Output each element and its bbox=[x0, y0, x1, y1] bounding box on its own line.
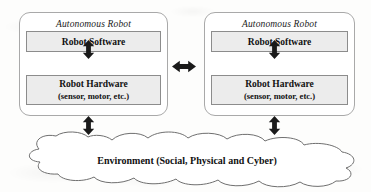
robot-panel-right-title: Autonomous Robot bbox=[205, 19, 354, 29]
robot-hardware-label-right: Robot Hardware bbox=[245, 79, 314, 90]
robot-hardware-label-left: Robot Hardware bbox=[59, 79, 128, 90]
robot-panel-left-title: Autonomous Robot bbox=[20, 19, 167, 29]
robot-panel-left: Autonomous Robot Robot Software Robot Ha… bbox=[19, 12, 168, 116]
environment-label: Environment (Social, Physical and Cyber) bbox=[16, 155, 358, 166]
robot-panel-right: Autonomous Robot Robot Software Robot Ha… bbox=[204, 12, 355, 116]
double-arrow-vertical-icon bbox=[82, 40, 95, 59]
architecture-diagram: Autonomous Robot Robot Software Robot Ha… bbox=[0, 0, 371, 192]
double-arrow-horizontal-icon bbox=[172, 60, 196, 73]
robot-hardware-box-left: Robot Hardware (sensor, motor, etc.) bbox=[26, 75, 161, 105]
double-arrow-vertical-icon bbox=[268, 40, 281, 59]
robot-hardware-sublabel-right: (sensor, motor, etc.) bbox=[244, 91, 315, 101]
robot-hardware-box-right: Robot Hardware (sensor, motor, etc.) bbox=[211, 75, 348, 105]
robot-hardware-sublabel-left: (sensor, motor, etc.) bbox=[58, 91, 129, 101]
